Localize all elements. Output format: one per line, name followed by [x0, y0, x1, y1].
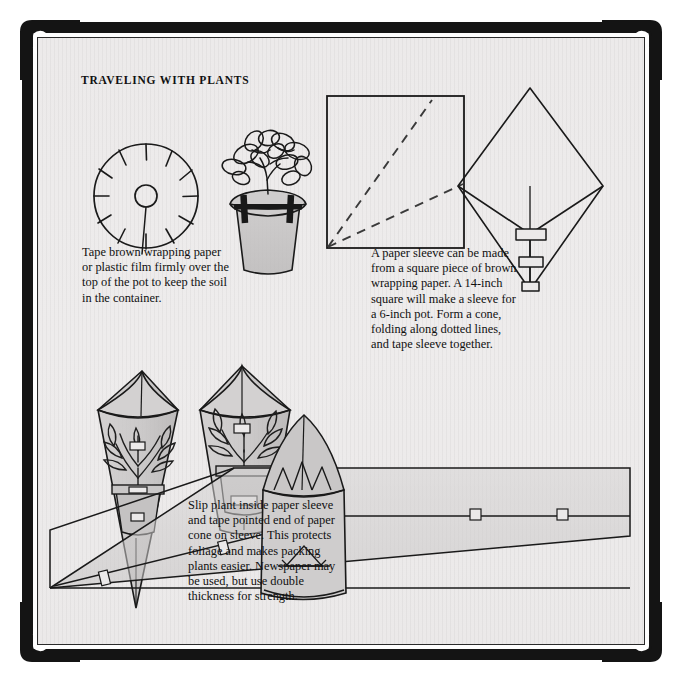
caption-line: in the container.	[82, 291, 229, 306]
caption-slip-plant-inside: Slip plant inside paper sleeve and tape …	[188, 498, 335, 604]
caption-line: or plastic film firmly over the	[82, 260, 229, 275]
figure-potted-plant	[221, 127, 315, 274]
figure-slit-disc	[94, 144, 198, 254]
caption-line: folding along dotted lines,	[371, 322, 517, 337]
caption-line: cone on sleeve. This protects	[188, 528, 335, 543]
caption-line: and tape pointed end of paper	[188, 513, 335, 528]
caption-line: foliage and makes packing	[188, 544, 335, 559]
caption-line: top of the pot to keep the soil	[82, 275, 229, 290]
caption-line: Tape brown wrapping paper	[82, 245, 229, 260]
caption-line: from a square piece of brown	[371, 261, 517, 276]
caption-line: wrapping paper. A 14-inch	[371, 276, 517, 291]
figure-square-fold-diagram	[327, 96, 464, 248]
caption-line: A paper sleeve can be made	[371, 246, 517, 261]
illustration-page: TRAVELING WITH PLANTS	[0, 0, 682, 682]
illustration-artwork	[38, 38, 645, 645]
caption-tape-paper-over-pot: Tape brown wrapping paper or plastic fil…	[82, 245, 229, 306]
caption-line: plants easier. Newspaper may	[188, 559, 335, 574]
caption-line: a 6-inch pot. Form a cone,	[371, 307, 517, 322]
caption-line: be used, but use double	[188, 574, 335, 589]
caption-line: Slip plant inside paper sleeve	[188, 498, 335, 513]
caption-line: square will make a sleeve for	[371, 292, 517, 307]
illustration-paper: TRAVELING WITH PLANTS	[37, 37, 645, 645]
caption-line: thickness for strength.	[188, 589, 335, 604]
caption-line: and tape sleeve together.	[371, 337, 517, 352]
caption-paper-sleeve: A paper sleeve can be made from a square…	[371, 246, 517, 352]
